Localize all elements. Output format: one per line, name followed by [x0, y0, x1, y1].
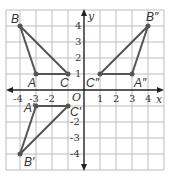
label-b-prime: B′	[24, 155, 35, 169]
svg-text:1: 1	[75, 68, 81, 79]
label-a-prime: A′	[23, 101, 35, 115]
y-axis-label: y	[87, 10, 95, 23]
label-c: C	[60, 76, 69, 90]
label-a-double-prime: A″	[133, 76, 147, 90]
svg-text:-4: -4	[13, 93, 23, 104]
svg-text:-3: -3	[70, 132, 80, 143]
svg-text:2: 2	[75, 52, 81, 63]
label-b: B	[11, 12, 19, 26]
svg-text:2: 2	[113, 93, 119, 104]
origin-label: O	[72, 91, 81, 104]
svg-text:3: 3	[129, 93, 135, 104]
coordinate-grid: y x O -4 -3 -2 1 2 3 4 4 3 2 1 -2 -3 -4 …	[0, 0, 171, 180]
label-a: A	[27, 76, 36, 90]
svg-text:-2: -2	[45, 93, 55, 104]
svg-text:-4: -4	[70, 148, 80, 159]
svg-text:4: 4	[145, 93, 151, 104]
svg-text:4: 4	[75, 20, 81, 31]
svg-text:3: 3	[75, 36, 81, 47]
label-b-double-prime: B″	[146, 10, 159, 24]
label-c-double-prime: C″	[86, 76, 100, 90]
svg-text:1: 1	[97, 93, 103, 104]
x-axis-label: x	[156, 93, 163, 106]
label-c-prime: C′	[70, 105, 82, 119]
